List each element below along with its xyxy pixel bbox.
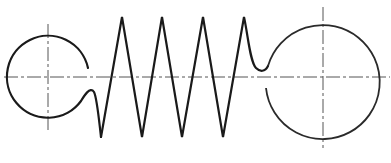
spring-drawing-canvas bbox=[0, 0, 391, 163]
spring-diagram bbox=[0, 0, 391, 163]
left-hook-loop bbox=[7, 36, 101, 137]
